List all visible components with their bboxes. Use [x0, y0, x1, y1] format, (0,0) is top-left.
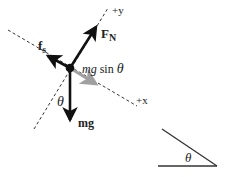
x-axis-label: +x [136, 94, 148, 106]
y-axis-label: +y [112, 4, 124, 16]
mg-sin-theta-label: mg sin θ [82, 61, 124, 76]
object-dot [66, 64, 75, 73]
incline-icon: θ [158, 129, 217, 166]
weight-label: mg [78, 116, 94, 130]
friction-force-label: fs [38, 38, 46, 55]
incline-theta-label: θ [185, 150, 192, 165]
normal-force-label: FN [101, 26, 117, 43]
theta-label: θ [57, 94, 64, 109]
free-body-diagram: +y +x FN fs mg sin θ mg θ θ [0, 0, 226, 177]
